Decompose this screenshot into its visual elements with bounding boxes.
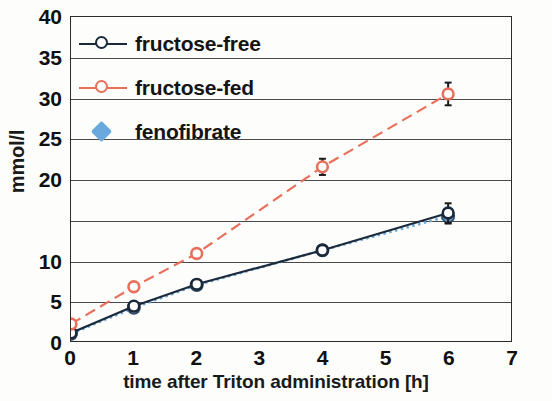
data-point (71, 319, 76, 330)
y-tick-label: 35 (16, 46, 62, 67)
y-tick-label: 20 (16, 169, 62, 190)
y-tick-label: 5 (16, 291, 62, 312)
data-point (191, 248, 202, 259)
data-point (128, 301, 139, 312)
chart-figure: mmol/l 05102025303540 fructose-freefruct… (0, 0, 552, 401)
y-axis-tick-labels: 05102025303540 (8, 0, 62, 401)
y-tick-label: 40 (16, 6, 62, 27)
data-point (443, 208, 454, 219)
x-tick-label: 1 (113, 347, 153, 368)
y-tick-label: 10 (16, 250, 62, 271)
data-point (317, 245, 328, 256)
x-tick-label: 3 (239, 347, 279, 368)
data-point (191, 279, 202, 290)
x-tick-label: 7 (492, 347, 532, 368)
series-line (71, 216, 448, 333)
data-point (443, 89, 454, 100)
x-axis-title: time after Triton administration [h] (0, 371, 552, 393)
data-point (317, 161, 328, 172)
plot-area: fructose-freefructose-fedfenofibrate (70, 16, 512, 342)
x-tick-label: 0 (50, 347, 90, 368)
x-tick-label: 6 (429, 347, 469, 368)
series-line (71, 213, 448, 333)
series-fructose-free (71, 203, 454, 338)
x-tick-label: 4 (303, 347, 343, 368)
y-tick-label: 30 (16, 87, 62, 108)
x-tick-label: 2 (176, 347, 216, 368)
series-line (71, 94, 448, 324)
x-tick-label: 5 (366, 347, 406, 368)
series-fructose-fed (71, 83, 454, 330)
y-tick-label: 25 (16, 128, 62, 149)
data-point (128, 281, 139, 292)
data-series-layer (71, 17, 511, 341)
